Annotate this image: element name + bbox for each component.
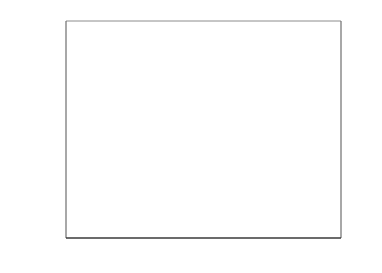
plot-area-background: [66, 21, 341, 238]
chart-canvas: [0, 0, 382, 273]
chart-container: [0, 0, 382, 273]
